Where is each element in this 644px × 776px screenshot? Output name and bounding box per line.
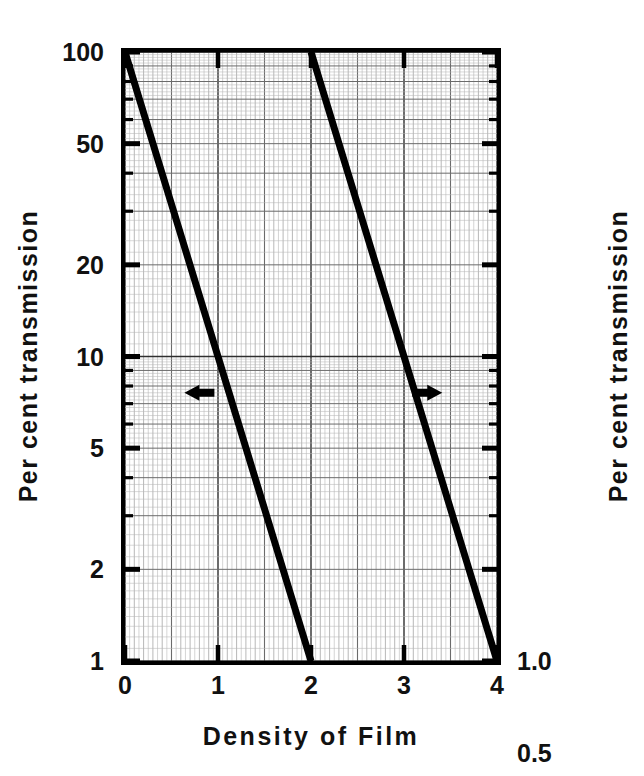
y-axis-right-title: Per cent transmission <box>606 210 631 503</box>
left-tick-1: 50 <box>76 131 104 156</box>
right-tick-1: 0.5 <box>517 740 552 765</box>
x-axis-tick-4: 4 <box>490 673 504 698</box>
left-tick-2: 20 <box>76 252 104 277</box>
right-tick-0: 1.0 <box>517 649 552 674</box>
left-tick-4: 5 <box>90 436 104 461</box>
left-tick-3: 10 <box>76 344 104 369</box>
y-axis-left-title: Per cent transmission <box>16 210 41 503</box>
chart-figure: 100502010521 1.00.50.20.100.050.020.01 0… <box>0 0 644 776</box>
left-tick-0: 100 <box>62 40 104 65</box>
x-axis-tick-1: 1 <box>211 673 225 698</box>
left-tick-6: 1 <box>90 649 104 674</box>
x-axis-title: Density of Film <box>203 724 420 749</box>
x-axis-tick-2: 2 <box>304 673 318 698</box>
right-arrow-icon <box>412 385 442 401</box>
x-axis-tick-0: 0 <box>118 673 132 698</box>
left-arrow-icon <box>184 385 214 401</box>
left-tick-5: 2 <box>90 557 104 582</box>
x-axis-tick-3: 3 <box>397 673 411 698</box>
